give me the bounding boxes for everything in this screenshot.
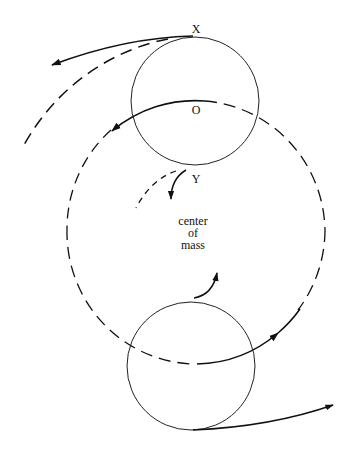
trajectory-y-solid-arrow [171,170,186,199]
orbit-solid-bottom-tail [278,309,300,333]
trajectory-x-dashed-curve [24,39,168,145]
label-x: X [192,22,201,36]
orbit-dashed-right [205,101,325,230]
label-o: O [192,103,201,117]
trajectory-bottom-top-arrow [194,273,217,298]
label-y: Y [192,172,201,186]
trajectory-x-solid-arrow [52,36,193,65]
trajectory-y-dashed-curve [136,171,176,208]
bottom-body-circle [127,302,255,430]
center-of-mass-diagram: X O Y center of mass [0,0,353,449]
orbit-solid-bottom [197,333,278,364]
orbit-dashed-left [67,130,111,228]
label-mass: mass [181,238,205,252]
orbit-dashed-right-lower [298,230,325,310]
